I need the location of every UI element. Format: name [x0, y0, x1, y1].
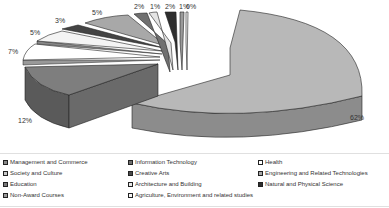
- label-2a: 2%: [134, 3, 144, 10]
- slice-management-and-commerce: [132, 10, 362, 137]
- legend-swatch-icon: [3, 193, 8, 198]
- slice-non-award: [180, 12, 184, 70]
- legend-item: Management and Commerce: [3, 157, 88, 167]
- legend-swatch-icon: [258, 171, 263, 176]
- label-5a: 5%: [30, 29, 40, 36]
- legend-swatch-icon: [128, 160, 133, 165]
- legend-item: Natural and Physical Science: [258, 179, 343, 189]
- chart-legend: Management and Commerce Information Tech…: [0, 153, 389, 207]
- label-62: 62%: [350, 114, 364, 121]
- legend-item: Health: [258, 157, 282, 167]
- slice-agriculture: [186, 12, 188, 70]
- legend-swatch-icon: [128, 182, 133, 187]
- legend-item: Society and Culture: [3, 168, 62, 178]
- legend-swatch-icon: [258, 182, 263, 187]
- label-3: 3%: [55, 17, 65, 24]
- label-0: 0%: [186, 3, 196, 10]
- legend-swatch-icon: [3, 182, 8, 187]
- legend-swatch-icon: [3, 171, 8, 176]
- pie-chart: 62% 12% 7% 5% 3% 5% 2% 1% 2% 1% 0%: [0, 0, 389, 150]
- label-1a: 1%: [150, 3, 160, 10]
- label-5b: 5%: [92, 9, 102, 16]
- label-7: 7%: [8, 48, 18, 55]
- legend-swatch-icon: [128, 171, 133, 176]
- legend-item: Non-Award Courses: [3, 190, 64, 200]
- legend-item: Education: [3, 179, 37, 189]
- legend-item: Information Technology: [128, 157, 197, 167]
- legend-swatch-icon: [3, 160, 8, 165]
- legend-item: Creative Arts: [128, 168, 169, 178]
- legend-swatch-icon: [258, 160, 263, 165]
- label-2b: 2%: [165, 3, 175, 10]
- legend-item: Architecture and Building: [128, 179, 202, 189]
- legend-item: Agriculture, Environment and related stu…: [128, 190, 253, 200]
- legend-swatch-icon: [128, 193, 133, 198]
- label-12: 12%: [18, 117, 32, 124]
- legend-item: Engineering and Related Technologies: [258, 168, 368, 178]
